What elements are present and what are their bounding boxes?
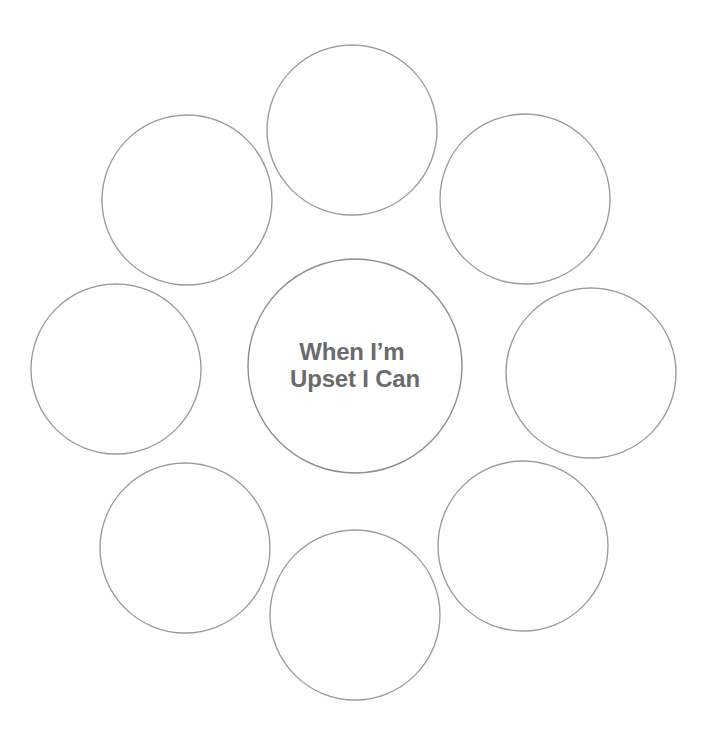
petal-circle-bottom[interactable]: [270, 530, 440, 700]
center-prompt-line-2: Upset I Can: [290, 365, 420, 392]
center-prompt-group: When I’m Upset I Can: [248, 259, 462, 473]
petal-circle-lower-left[interactable]: [100, 463, 270, 633]
petal-circle-top[interactable]: [267, 45, 437, 215]
petal-circle-right[interactable]: [506, 288, 676, 458]
center-prompt-text: When I’m Upset I Can: [290, 338, 420, 392]
petal-circle-left[interactable]: [31, 284, 201, 454]
petal-circle-upper-right[interactable]: [440, 114, 610, 284]
bubble-map-diagram: When I’m Upset I Can: [0, 0, 706, 738]
center-prompt-line-1: When I’m: [299, 338, 404, 365]
petal-circle-lower-right[interactable]: [438, 461, 608, 631]
petal-circle-upper-left[interactable]: [102, 115, 272, 285]
worksheet-canvas: When I’m Upset I Can: [0, 0, 706, 738]
